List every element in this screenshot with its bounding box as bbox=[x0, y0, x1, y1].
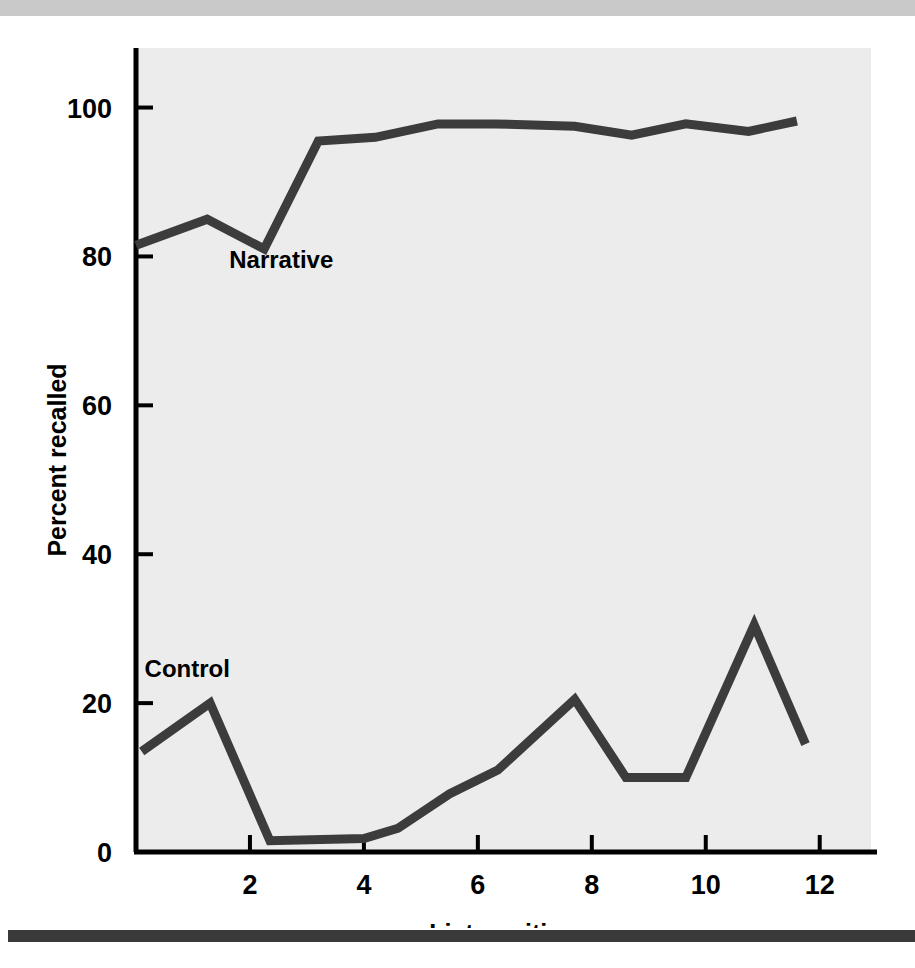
x-tick-label-12: 12 bbox=[805, 870, 835, 900]
top-divider-rule bbox=[0, 0, 915, 16]
series-label-narrative: Narrative bbox=[229, 246, 333, 273]
y-tick-label-0: 0 bbox=[97, 838, 112, 868]
x-tick-label-6: 6 bbox=[470, 870, 485, 900]
x-tick-label-2: 2 bbox=[242, 870, 257, 900]
y-tick-label-20: 20 bbox=[82, 689, 112, 719]
x-axis-title: List position bbox=[429, 919, 578, 928]
plot-background bbox=[136, 48, 871, 852]
x-tick-label-10: 10 bbox=[691, 870, 721, 900]
bottom-divider-rule bbox=[8, 930, 915, 942]
y-tick-label-40: 40 bbox=[82, 540, 112, 570]
y-axis-title: Percent recalled bbox=[43, 363, 71, 556]
line-chart: 02040608010024681012List positionPercent… bbox=[0, 16, 915, 928]
y-tick-label-60: 60 bbox=[82, 391, 112, 421]
series-label-control: Control bbox=[145, 655, 230, 682]
chart-container: 02040608010024681012List positionPercent… bbox=[0, 16, 915, 928]
x-tick-label-4: 4 bbox=[356, 870, 371, 900]
y-tick-label-100: 100 bbox=[67, 94, 112, 124]
figure-container: 02040608010024681012List positionPercent… bbox=[0, 0, 915, 968]
x-tick-label-8: 8 bbox=[584, 870, 599, 900]
y-tick-label-80: 80 bbox=[82, 242, 112, 272]
